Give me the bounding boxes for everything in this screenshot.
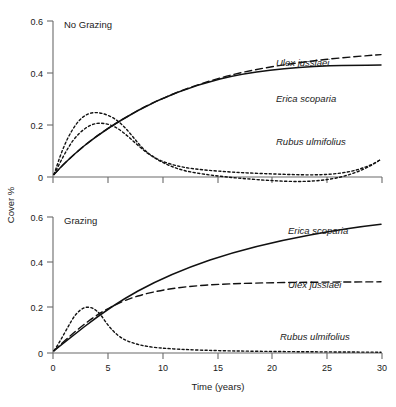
curve-ulex-top <box>54 55 381 175</box>
top-x-ticks <box>53 177 382 183</box>
two-panel-line-chart: Cover % 0.6 0.4 0.2 0 <box>0 0 396 407</box>
bottom-xtick-4: 20 <box>267 363 277 373</box>
top-ytick-2: 0.2 <box>30 121 43 131</box>
bottom-label-rubus: Rubus ulmifolius <box>280 331 350 342</box>
panel-no-grazing: 0.6 0.4 0.2 0 No Grazing <box>30 17 382 184</box>
curve-rubus-bottom <box>54 307 381 352</box>
bottom-x-ticks <box>53 353 382 359</box>
y-axis-title: Cover % <box>5 186 16 223</box>
bottom-y-ticks <box>47 217 53 353</box>
panel-grazing: 0.6 0.4 0.2 0 0 5 10 15 20 25 30 Time (y… <box>30 213 387 393</box>
bottom-xtick-0: 0 <box>50 363 55 373</box>
bottom-xtick-5: 25 <box>322 363 332 373</box>
bottom-ytick-2: 0.2 <box>30 303 43 313</box>
curve-erica-top <box>54 65 381 174</box>
bottom-panel-title: Grazing <box>64 215 97 226</box>
top-ytick-3: 0 <box>38 173 43 183</box>
bottom-label-erica: Erica scoparia <box>288 225 348 236</box>
top-label-ulex: Ulex jussiaei <box>276 57 330 68</box>
bottom-xtick-1: 5 <box>105 363 110 373</box>
bottom-ytick-0: 0.6 <box>30 213 43 223</box>
x-axis-title: Time (years) <box>192 381 245 392</box>
top-ytick-0: 0.6 <box>30 17 43 27</box>
top-panel-curves <box>54 55 381 182</box>
bottom-xtick-3: 15 <box>213 363 223 373</box>
bottom-label-ulex: Ulex jussiaei <box>288 279 342 290</box>
top-label-rubus: Rubus ulmifolius <box>276 136 346 147</box>
top-panel-title: No Grazing <box>64 19 112 30</box>
bottom-ytick-1: 0.4 <box>30 258 43 268</box>
top-ytick-1: 0.4 <box>30 69 43 79</box>
figure-container: Cover % 0.6 0.4 0.2 0 <box>0 0 396 407</box>
bottom-ytick-3: 0 <box>38 349 43 359</box>
bottom-xtick-2: 10 <box>158 363 168 373</box>
top-label-erica: Erica scoparia <box>276 93 336 104</box>
top-y-ticks <box>47 21 53 177</box>
bottom-xtick-6: 30 <box>377 363 387 373</box>
